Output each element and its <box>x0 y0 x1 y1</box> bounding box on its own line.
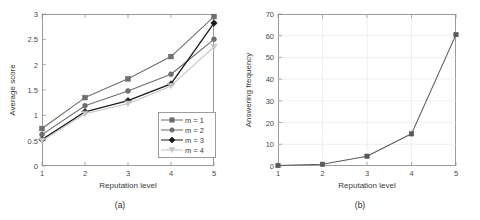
y-tick-label: 70 <box>252 10 274 19</box>
legend-label: m = 3 <box>185 136 204 145</box>
y-tick-label: 10 <box>252 140 274 149</box>
x-tick-label: 4 <box>409 169 413 178</box>
legend-marker-diamond-icon <box>161 135 183 145</box>
legend-item-m3: m = 3 <box>161 135 212 145</box>
y-tick-label: 1.5 <box>16 86 38 95</box>
legend-label: m = 2 <box>185 126 204 135</box>
x-tick-label: 3 <box>126 169 130 178</box>
x-tick-label: 2 <box>320 169 324 178</box>
legend-item-m4: m = 4 <box>161 145 212 155</box>
legend-marker-triangle-icon <box>161 145 183 155</box>
y-tick-label: 30 <box>252 96 274 105</box>
legend-item-m1: m = 1 <box>161 115 212 125</box>
y-tick-label: 2.5 <box>16 35 38 44</box>
y-tick-label: 50 <box>252 53 274 62</box>
legend-marker-square-icon <box>161 115 183 125</box>
y-axis-title-b: Answering frequency <box>244 53 253 128</box>
legend-a: m = 1m = 2m = 3m = 4 <box>158 112 216 158</box>
x-tick-label: 3 <box>365 169 369 178</box>
x-tick-label: 5 <box>212 169 216 178</box>
x-tick-label: 2 <box>83 169 87 178</box>
legend-marker-circle-icon <box>161 125 183 135</box>
x-tick-label: 5 <box>454 169 458 178</box>
panel-b: 01020304050607012345 Reputation level An… <box>240 0 480 220</box>
y-tick-label: 40 <box>252 75 274 84</box>
x-axis-title-a: Reputation level <box>42 181 214 190</box>
panel-b-caption: (b) <box>240 200 480 210</box>
panel-a: 00.511.522.5312345 Reputation level Aver… <box>0 0 240 220</box>
legend-label: m = 4 <box>185 146 204 155</box>
figure-two-panel-line-charts: 00.511.522.5312345 Reputation level Aver… <box>0 0 480 220</box>
legend-item-m2: m = 2 <box>161 125 212 135</box>
y-tick-label: 60 <box>252 31 274 40</box>
y-tick-label: 1 <box>16 111 38 120</box>
x-tick-label: 4 <box>169 169 173 178</box>
y-tick-label: 0 <box>16 162 38 171</box>
y-tick-label: 3 <box>16 10 38 19</box>
x-axis-title-b: Reputation level <box>278 181 456 190</box>
x-tick-label: 1 <box>40 169 44 178</box>
panel-a-caption: (a) <box>0 200 240 210</box>
y-tick-label: 2 <box>16 60 38 69</box>
legend-label: m = 1 <box>185 116 204 125</box>
y-axis-title-a: Average score <box>8 64 17 115</box>
y-tick-label: 20 <box>252 118 274 127</box>
y-tick-label: 0.5 <box>16 136 38 145</box>
x-tick-label: 1 <box>276 169 280 178</box>
y-tick-label: 0 <box>252 162 274 171</box>
